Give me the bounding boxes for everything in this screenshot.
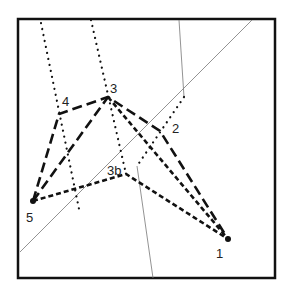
label-point-3b: 3b [107,163,121,178]
label-point-2: 2 [172,121,179,136]
diagram-canvas: 1 2 3 3b 4 5 [0,0,287,289]
point-5-marker [30,198,36,204]
label-point-3: 3 [110,81,117,96]
label-point-5: 5 [26,210,33,225]
label-point-1: 1 [216,246,223,261]
frame-border [18,19,275,278]
short-dash-path [33,174,228,239]
short-dash-3-1 [108,97,228,239]
label-point-4: 4 [62,94,69,109]
long-dash-path [33,97,228,239]
thin-line-diagonal [20,20,252,252]
long-dash-5-3 [33,97,108,201]
thin-line-top [179,20,184,97]
point-1-marker [225,236,231,242]
